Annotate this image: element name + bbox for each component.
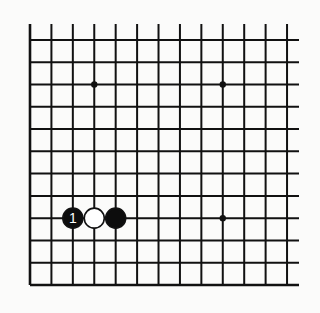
stone-label: 1 bbox=[69, 210, 77, 226]
star-point bbox=[91, 81, 97, 87]
white-stone bbox=[84, 208, 104, 228]
go-board: 1 bbox=[0, 0, 320, 313]
stones: 1 bbox=[63, 208, 126, 228]
black-stone: 1 bbox=[63, 208, 83, 228]
board-grid bbox=[30, 24, 299, 285]
black-stone bbox=[106, 208, 126, 228]
star-point bbox=[220, 81, 226, 87]
star-point bbox=[220, 215, 226, 221]
